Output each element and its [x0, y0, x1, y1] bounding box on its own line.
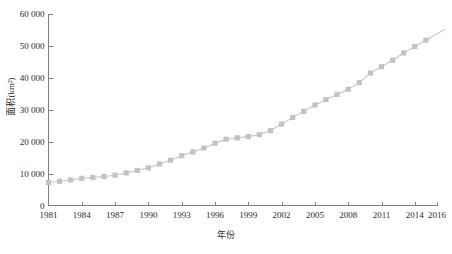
data-point-marker	[246, 134, 251, 139]
x-axis-ticks	[83, 202, 438, 206]
data-point-marker	[357, 80, 362, 85]
x-tick-label: 1981	[34, 210, 64, 220]
data-point-marker	[212, 141, 217, 146]
data-point-marker	[135, 168, 140, 173]
x-tick-label: 2016	[422, 210, 452, 220]
data-point-marker	[124, 170, 129, 175]
y-axis-title: 面积(km²)	[4, 57, 17, 137]
data-point-marker	[201, 145, 206, 150]
data-point-marker	[401, 50, 406, 55]
y-tick-label: 60 000	[3, 9, 45, 19]
chart-axes	[49, 14, 438, 206]
x-tick-label: 1984	[67, 210, 97, 220]
data-point-marker	[168, 158, 173, 163]
x-tick-label: 1999	[233, 210, 263, 220]
data-point-marker	[146, 165, 151, 170]
data-point-marker	[68, 177, 73, 182]
y-tick-label: 20 000	[3, 137, 45, 147]
data-point-marker	[346, 87, 351, 92]
data-point-marker	[290, 115, 295, 120]
data-point-marker	[335, 92, 340, 97]
data-point-marker	[268, 128, 273, 133]
x-tick-label: 2008	[333, 210, 363, 220]
data-point-marker	[235, 135, 240, 140]
data-point-marker	[301, 109, 306, 114]
x-axis-title: 年份	[0, 228, 452, 241]
x-tick-label: 1987	[100, 210, 130, 220]
x-tick-label: 1993	[167, 210, 197, 220]
series-line-area	[49, 29, 445, 182]
x-tick-label: 2011	[367, 210, 397, 220]
data-point-marker	[379, 64, 384, 69]
data-point-marker	[57, 179, 62, 184]
data-point-marker	[279, 122, 284, 127]
data-point-marker	[90, 175, 95, 180]
data-point-marker	[157, 161, 162, 166]
x-tick-label: 2002	[267, 210, 297, 220]
data-point-marker	[79, 176, 84, 181]
data-point-marker	[257, 132, 262, 137]
data-point-marker	[412, 44, 417, 49]
data-point-marker	[323, 97, 328, 102]
data-point-marker	[224, 137, 229, 142]
chart-container: 010 00020 00030 00040 00050 00060 000 19…	[0, 0, 452, 254]
y-tick-label: 50 000	[3, 41, 45, 51]
y-tick-label: 10 000	[3, 169, 45, 179]
x-tick-label: 1990	[133, 210, 163, 220]
data-point-marker	[179, 153, 184, 158]
series-markers	[46, 38, 429, 186]
x-tick-label: 2005	[300, 210, 330, 220]
data-point-marker	[101, 174, 106, 179]
data-point-marker	[368, 70, 373, 75]
data-point-marker	[46, 180, 51, 185]
data-point-marker	[390, 58, 395, 63]
data-point-marker	[190, 149, 195, 154]
data-point-marker	[113, 173, 118, 178]
data-point-marker	[423, 38, 428, 43]
y-axis-ticks	[49, 15, 53, 175]
data-point-marker	[312, 102, 317, 107]
x-tick-label: 1996	[200, 210, 230, 220]
data-series	[46, 29, 445, 185]
